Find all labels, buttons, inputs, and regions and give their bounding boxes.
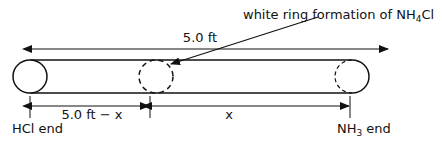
nh3-end-label: NH3 end [337, 121, 391, 138]
right-segment-label: x [225, 107, 233, 122]
total-length-label: 5.0 ft [183, 30, 217, 45]
hcl-end-opening [13, 60, 47, 93]
callout-label: white ring formation of NH4Cl [243, 7, 434, 24]
nh3-end-opening [335, 60, 352, 93]
tube-diffusion-diagram: white ring formation of NH4Cl 5.0 ft 5.0… [0, 0, 442, 143]
left-segment-label: 5.0 ft − x [61, 107, 122, 122]
white-ring-marker [139, 60, 173, 93]
hcl-end-label: HCl end [12, 121, 63, 136]
tube-right-end-cap [352, 60, 369, 93]
